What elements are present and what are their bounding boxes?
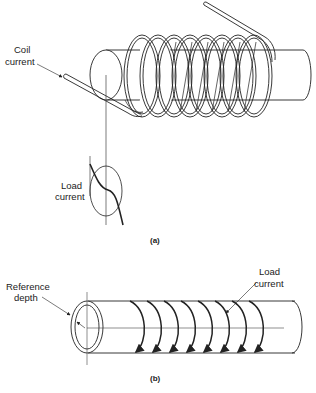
load-current-label-1: Load [61,180,82,191]
coil-current-label-1: Coil [14,44,30,55]
figure-b-caption: (b) [150,374,161,383]
load-current-label-b-2: current [254,278,284,289]
load-current-arrows [130,301,263,352]
reference-depth-label-2: depth [14,292,38,303]
workpiece-cylinder [90,50,311,100]
figure-a-caption: (a) [150,236,160,245]
figure-a: Coil current Load current (a) [5,2,311,245]
reference-depth-leader-outer [42,297,70,315]
figure-b: Reference depth Load current (b) [6,266,302,383]
hollow-cylinder [71,301,302,353]
load-current-label-2: current [55,191,85,202]
coil-current-leader [37,64,62,77]
load-current-label-b-1: Load [259,266,280,277]
load-current-waveform [90,156,123,225]
induction-heating-diagram: Coil current Load current (a) [0,0,316,393]
coil-current-label-2: current [5,56,35,67]
reference-depth-label-1: Reference [6,281,50,292]
